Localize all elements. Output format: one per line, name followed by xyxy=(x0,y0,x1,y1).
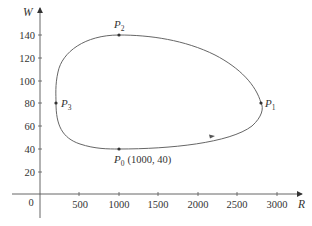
x-axis-label: R xyxy=(297,198,305,210)
y-tick-label: 80 xyxy=(25,98,36,109)
y-tick-label: 20 xyxy=(25,167,36,178)
point-p0 xyxy=(117,147,120,150)
phase-plot: W R 0 140 120 100 80 60 40 20 500 1000 1… xyxy=(0,0,312,226)
direction-arrow-icon xyxy=(209,135,215,139)
x-tick-label: 2500 xyxy=(227,199,248,210)
y-tick-label: 140 xyxy=(19,30,35,41)
y-tick-label: 40 xyxy=(25,144,36,155)
x-tick-label: 500 xyxy=(72,199,88,210)
y-axis-label: W xyxy=(23,6,34,18)
trajectory-curve xyxy=(56,35,262,149)
origin-label: 0 xyxy=(28,197,33,208)
y-tick-label: 60 xyxy=(25,121,36,132)
x-tick-label: 2000 xyxy=(188,199,209,210)
y-tick-label: 120 xyxy=(19,53,35,64)
label-p3: P3 xyxy=(60,97,72,112)
x-tick-label: 3000 xyxy=(267,199,288,210)
point-p2 xyxy=(117,33,120,36)
point-p3 xyxy=(54,101,57,104)
point-p1 xyxy=(259,101,262,104)
x-tick-label: 1000 xyxy=(109,199,130,210)
label-p0: P0(1000, 40) xyxy=(113,153,172,168)
label-p2: P2 xyxy=(113,18,125,33)
x-tick-label: 1500 xyxy=(148,199,169,210)
y-tick-label: 100 xyxy=(19,76,35,87)
label-p1: P1 xyxy=(264,97,276,112)
